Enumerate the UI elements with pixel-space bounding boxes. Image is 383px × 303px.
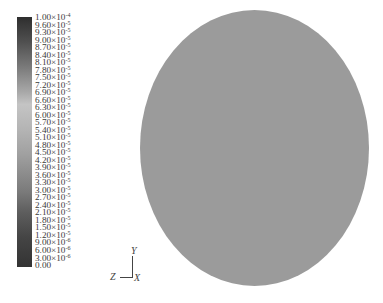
colorbar-labels: 1.00×10-49.60×10-59.30×10-59.00×10-58.70… [35,14,95,270]
y-axis-line [132,256,133,278]
colorbar [17,17,32,267]
z-axis-label: Z [110,271,116,282]
axis-triad: Y Z X [113,246,163,286]
colorbar-tick-label: 0.00 [35,262,95,270]
contour-plot-disc [140,10,369,286]
y-axis-label: Y [131,245,137,256]
z-axis-line [120,277,133,278]
x-axis-label: X [134,272,140,283]
